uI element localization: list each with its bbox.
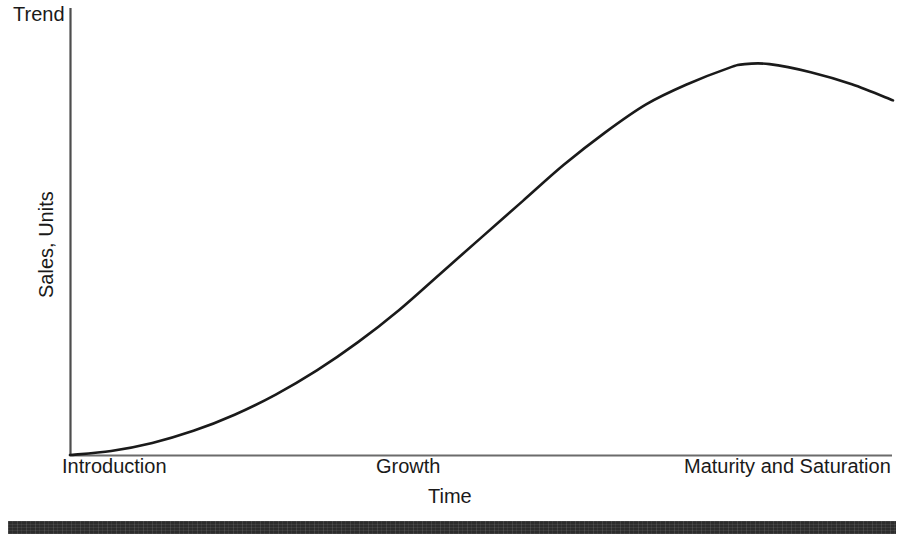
product-life-cycle-chart: Trend Sales, Units Introduction Growth M… — [0, 0, 906, 545]
footer-rule-bar — [8, 521, 896, 534]
y-axis-title: Sales, Units — [36, 191, 56, 298]
x-tick-label-growth: Growth — [376, 456, 440, 476]
x-tick-label-maturity: Maturity and Saturation — [684, 456, 891, 476]
trend-corner-label: Trend — [13, 4, 65, 24]
trend-curve — [70, 63, 893, 455]
x-tick-label-introduction: Introduction — [62, 456, 167, 476]
x-axis-title: Time — [428, 486, 472, 506]
